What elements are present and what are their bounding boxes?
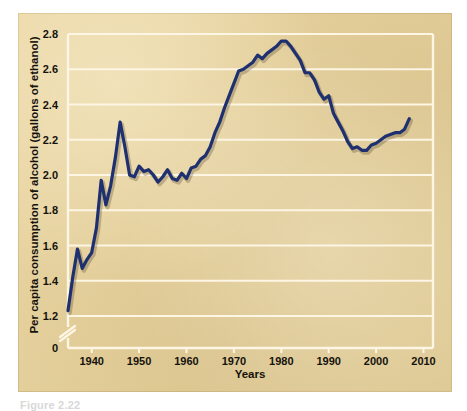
x-tick-label-1990: 1990	[316, 355, 340, 367]
y-tick-label-2.4: 2.4	[43, 99, 59, 111]
data-line-shadow	[70, 43, 411, 313]
x-tick-label-1970: 1970	[222, 355, 246, 367]
axes-group	[60, 34, 433, 353]
y-tick-label-0: 0	[52, 342, 58, 354]
gridlines-group	[68, 34, 433, 316]
x-tick-label-1950: 1950	[127, 355, 151, 367]
x-tick-label-1940: 1940	[79, 355, 103, 367]
y-tick-label-1.4: 1.4	[43, 275, 59, 287]
y-tick-label-2.6: 2.6	[43, 63, 58, 75]
y-tick-label-1.8: 1.8	[43, 204, 58, 216]
x-tick-label-1980: 1980	[269, 355, 293, 367]
y-axis-title: Per capita consumption of alcohol (gallo…	[28, 36, 40, 333]
x-tick-label-2000: 2000	[364, 355, 388, 367]
x-axis-tick-labels: 19401950196019701980199020002010	[79, 355, 435, 367]
y-tick-label-2.8: 2.8	[43, 28, 58, 40]
x-tick-label-2010: 2010	[411, 355, 435, 367]
y-tick-label-2.0: 2.0	[43, 169, 58, 181]
y-tick-label-1.6: 1.6	[43, 240, 58, 252]
x-tick-label-1960: 1960	[174, 355, 198, 367]
figure-caption: Figure 2.22	[20, 399, 80, 411]
y-tick-label-2.2: 2.2	[43, 134, 58, 146]
data-series-group	[68, 41, 411, 313]
x-axis-title: Years	[235, 368, 266, 380]
y-tick-label-1.2: 1.2	[43, 310, 58, 322]
y-axis-tick-labels: 01.21.41.61.82.02.22.42.62.8	[43, 28, 59, 354]
